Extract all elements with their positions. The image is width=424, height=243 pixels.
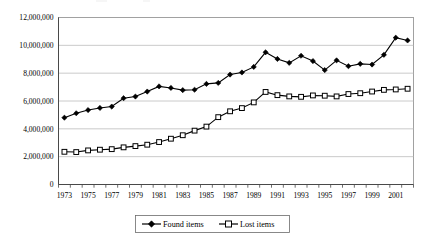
chart-canvas: 02,000,0004,000,0006,000,0008,000,00010,… [0,0,424,243]
x-axis-tick-label: 1977 [104,191,119,200]
data-point-marker [74,150,79,155]
x-axis-tick-label: 1989 [246,191,261,200]
data-point-marker [287,94,292,99]
x-axis-tick-label: 2001 [388,191,403,200]
line-chart: 02,000,0004,000,0006,000,0008,000,00010,… [0,0,424,243]
data-point-marker [322,93,327,98]
y-axis-tick-label: 2,000,000 [23,152,54,161]
x-axis-tick-label: 1995 [317,191,332,200]
x-axis-tick-labels: 1973197519771979198119831985198719891991… [57,191,404,200]
data-point-marker [346,92,351,97]
x-axis-tick-label: 1993 [293,191,308,200]
data-point-marker [263,90,268,95]
data-point-marker [216,115,221,120]
x-axis-tick-label: 1997 [341,191,356,200]
data-point-marker [192,128,197,133]
x-axis-tick-label: 1981 [151,191,166,200]
y-axis-tick-label: 12,000,000 [19,13,53,22]
x-axis-tick-label: 1999 [364,191,379,200]
data-point-marker [334,94,339,99]
x-axis-tick-label: 1975 [80,191,95,200]
data-point-marker [226,221,232,227]
legend-label: Lost items [240,220,274,229]
data-point-marker [157,140,162,145]
data-point-marker [169,136,174,141]
data-point-marker [109,147,114,152]
data-point-marker [405,86,410,91]
data-point-marker [358,91,363,96]
y-axis-tick-label: 4,000,000 [23,125,54,134]
data-point-marker [393,87,398,92]
data-point-marker [98,147,103,152]
chart-legend: Found itemsLost items [136,216,290,233]
data-point-marker [228,109,233,114]
data-point-marker [275,93,280,98]
data-point-marker [240,106,245,111]
data-point-marker [180,133,185,138]
data-point-marker [86,148,91,153]
x-axis-tick-label: 1973 [57,191,72,200]
y-axis-tick-label: 10,000,000 [19,41,53,50]
data-point-marker [382,87,387,92]
legend-label: Found items [163,220,204,229]
data-point-marker [370,89,375,94]
data-point-marker [311,93,316,98]
data-point-marker [121,145,126,150]
y-axis-tick-label: 0 [50,180,54,189]
y-axis-tick-label: 6,000,000 [23,97,54,106]
x-axis-tick-label: 1991 [270,191,285,200]
data-point-marker [62,149,67,154]
data-point-marker [133,144,138,149]
data-point-marker [251,100,256,105]
x-axis-tick-label: 1987 [222,191,237,200]
x-axis-tick-label: 1979 [128,191,143,200]
data-point-marker [299,94,304,99]
y-axis-tick-label: 8,000,000 [23,69,54,78]
x-axis-tick-label: 1985 [199,191,214,200]
data-point-marker [204,124,209,129]
x-axis-tick-label: 1983 [175,191,190,200]
data-point-marker [145,142,150,147]
